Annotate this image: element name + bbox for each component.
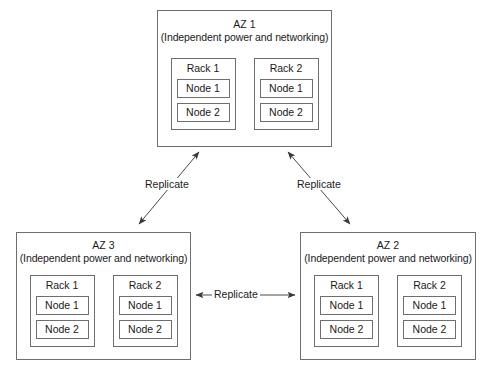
availability-zone-diagram: Replicate Replicate Replicate AZ 1 (Inde… [0, 0, 488, 372]
az-1-title-group: AZ 1 (Independent power and networking) [158, 18, 331, 44]
az-3-racks-row: Rack 1 Node 1 Node 2 Rack 2 Node 1 Node … [17, 275, 190, 347]
az-1-rack-1-node-2: Node 2 [177, 103, 230, 122]
az-1-rack-2-label: Rack 2 [270, 63, 303, 75]
az-2-rack-1-node-1: Node 1 [320, 296, 373, 315]
az-2-subtitle: (Independent power and networking) [301, 252, 475, 265]
az-1-racks-row: Rack 1 Node 1 Node 2 Rack 2 Node 1 Node … [158, 58, 331, 130]
az-2-rack-2-label: Rack 2 [413, 280, 446, 292]
az-1-rack-1-node-1: Node 1 [177, 79, 230, 98]
az-3-rack-2: Rack 2 Node 1 Node 2 [113, 275, 178, 347]
az-3-rack-2-node-2: Node 2 [119, 320, 172, 339]
availability-zone-az-1: AZ 1 (Independent power and networking) … [157, 10, 332, 147]
az-1-rack-1: Rack 1 Node 1 Node 2 [171, 58, 236, 130]
az-3-rack-1: Rack 1 Node 1 Node 2 [30, 275, 95, 347]
az-1-name: AZ 1 [158, 18, 331, 31]
az-3-rack-2-label: Rack 2 [129, 280, 162, 292]
az-1-rack-1-label: Rack 1 [187, 63, 220, 75]
az-1-rack-2: Rack 2 Node 1 Node 2 [254, 58, 319, 130]
az-3-subtitle: (Independent power and networking) [17, 252, 190, 265]
replicate-label-bottom: Replicate [212, 288, 260, 300]
az-2-name: AZ 2 [301, 239, 475, 252]
az-2-rack-1: Rack 1 Node 1 Node 2 [314, 275, 379, 347]
az-3-rack-1-node-2: Node 2 [36, 320, 89, 339]
az-2-rack-2: Rack 2 Node 1 Node 2 [397, 275, 462, 347]
az-2-rack-2-node-1: Node 1 [403, 296, 456, 315]
az-3-rack-1-node-1: Node 1 [36, 296, 89, 315]
az-2-racks-row: Rack 1 Node 1 Node 2 Rack 2 Node 1 Node … [301, 275, 475, 347]
az-2-rack-1-node-2: Node 2 [320, 320, 373, 339]
az-2-rack-1-label: Rack 1 [330, 280, 363, 292]
az-3-rack-1-label: Rack 1 [46, 280, 79, 292]
az-1-rack-2-node-1: Node 1 [260, 79, 313, 98]
replicate-label-left: Replicate [143, 178, 191, 190]
replicate-label-right: Replicate [295, 178, 343, 190]
az-3-rack-2-node-1: Node 1 [119, 296, 172, 315]
availability-zone-az-3: AZ 3 (Independent power and networking) … [16, 232, 191, 360]
az-1-rack-2-node-2: Node 2 [260, 103, 313, 122]
az-3-title-group: AZ 3 (Independent power and networking) [17, 239, 190, 265]
az-2-rack-2-node-2: Node 2 [403, 320, 456, 339]
az-1-subtitle: (Independent power and networking) [158, 31, 331, 44]
az-2-title-group: AZ 2 (Independent power and networking) [301, 239, 475, 265]
availability-zone-az-2: AZ 2 (Independent power and networking) … [300, 232, 476, 360]
az-3-name: AZ 3 [17, 239, 190, 252]
